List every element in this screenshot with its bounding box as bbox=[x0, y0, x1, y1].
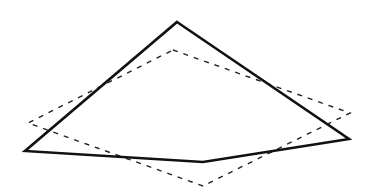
dashed-quadrilateral bbox=[28, 50, 350, 186]
quadrilateral-diagram bbox=[0, 0, 374, 188]
diagram-canvas bbox=[0, 0, 374, 188]
solid-quadrilateral bbox=[25, 22, 349, 162]
